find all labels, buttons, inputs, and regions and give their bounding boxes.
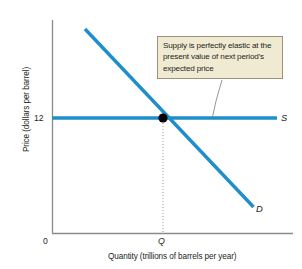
equilibrium-point-marker [158,113,167,122]
supply-curve-label: S [281,112,287,123]
economics-supply-demand-chart: Price (dollars per barrel) Quantity (tri… [0,0,302,269]
annotation-leader-line [213,80,223,117]
x-tick-label-q: Q [158,236,165,246]
annotation-callout: Supply is perfectly elastic at the prese… [157,36,283,79]
y-axis-title: Price (dollars per barrel) [22,35,31,185]
origin-tick-label: 0 [43,236,48,246]
annotation-callout-text: Supply is perfectly elastic at the prese… [163,40,277,74]
y-tick-label-12: 12 [34,113,44,123]
demand-curve-label: D [256,203,263,214]
x-axis-title: Quantity (trillions of barrels per year) [108,252,236,261]
